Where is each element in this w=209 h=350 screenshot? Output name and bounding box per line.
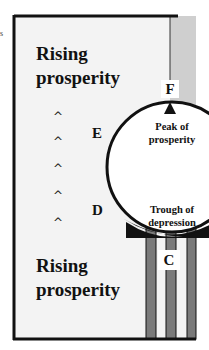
support-bar-left [146,225,156,339]
rising-prosperity-top-line2: prosperity [36,66,120,90]
trough-of-depression-label: Trough of depression [139,203,205,229]
support-bar-right [187,225,196,339]
up-arrow-icon: ^ [53,217,63,229]
rising-prosperity-top-label: Rising prosperity [36,42,120,90]
point-f-label: F [165,82,174,97]
rising-prosperity-bottom-line1: Rising [36,254,120,278]
rising-prosperity-top-line1: Rising [36,42,120,66]
peak-of-prosperity-label: Peak of prosperity [142,120,202,146]
up-arrow-icon: ^ [53,190,63,202]
trough-label-line2: depression [139,216,205,229]
point-f-box: F [161,80,179,98]
peak-label-line2: prosperity [142,133,202,146]
up-arrow-icon: ^ [53,163,63,175]
point-e-label: E [92,126,102,141]
point-d-label: D [92,203,103,218]
peak-label-line1: Peak of [142,120,202,133]
point-c-label: C [164,253,175,268]
up-arrow-icon: ^ [53,111,63,123]
rising-prosperity-bottom-line2: prosperity [36,278,120,302]
up-arrow-icon: ^ [53,136,63,148]
rising-prosperity-bottom-label: Rising prosperity [36,254,120,302]
trough-label-line1: Trough of [139,203,205,216]
point-c-box: C [158,250,180,270]
support-bar-center [166,225,176,339]
